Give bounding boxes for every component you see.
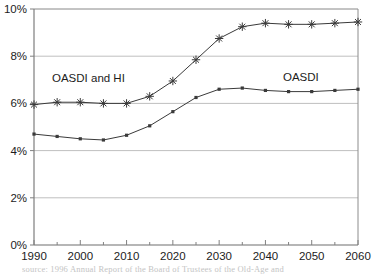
- data-point-2055: [331, 19, 339, 27]
- y-tick-label-2%: 2%: [10, 192, 27, 204]
- x-tick-label-2000: 2000: [67, 250, 93, 262]
- data-point-2035: [238, 23, 246, 31]
- data-point-2030: [215, 34, 223, 42]
- source-caption-cutoff: source: 1996 Annual Report of the Board …: [0, 264, 375, 274]
- data-point-2055: [333, 89, 336, 92]
- data-point-2010: [122, 99, 130, 107]
- x-tick-label-2060: 2060: [345, 250, 371, 262]
- data-point-2050: [310, 90, 313, 93]
- data-point-1990: [30, 100, 38, 108]
- data-point-2045: [287, 90, 290, 93]
- x-tick-label-2020: 2020: [160, 250, 186, 262]
- data-point-2025: [194, 96, 197, 99]
- x-tick-label-1990: 1990: [21, 250, 47, 262]
- x-tick-label-2030: 2030: [206, 250, 232, 262]
- y-axis-tick-labels: 0%2%4%6%8%10%: [4, 3, 27, 251]
- data-point-2015: [148, 124, 151, 127]
- data-point-2060: [356, 88, 359, 91]
- data-point-2005: [102, 138, 105, 141]
- chart-figure: 0%2%4%6%8%10% 19902000201020202030204020…: [0, 0, 375, 274]
- data-point-2015: [146, 92, 154, 100]
- series-annotation-oasdi-and-hi: OASDI and HI: [52, 72, 125, 84]
- data-point-1995: [53, 98, 61, 106]
- x-tick-label-2010: 2010: [114, 250, 140, 262]
- y-tick-label-6%: 6%: [10, 97, 27, 109]
- y-tick-label-10%: 10%: [4, 3, 27, 15]
- series-annotation-oasdi: OASDI: [283, 71, 319, 83]
- data-point-1990: [32, 132, 35, 135]
- plot-background: [34, 9, 358, 245]
- data-point-2040: [264, 89, 267, 92]
- x-axis-tick-labels: 19902000201020202030204020502060: [21, 250, 371, 262]
- data-point-1995: [56, 135, 59, 138]
- data-point-2050: [308, 20, 316, 28]
- data-point-2060: [354, 18, 362, 26]
- data-point-2020: [169, 77, 177, 85]
- income-rate-projection-line-chart: 0%2%4%6%8%10% 19902000201020202030204020…: [0, 0, 375, 274]
- y-tick-label-4%: 4%: [10, 145, 27, 157]
- data-point-2000: [79, 137, 82, 140]
- data-point-2040: [261, 19, 269, 27]
- data-point-2005: [99, 99, 107, 107]
- y-tick-label-8%: 8%: [10, 50, 27, 62]
- data-point-2025: [192, 56, 200, 64]
- data-point-2035: [241, 86, 244, 89]
- data-point-2030: [218, 88, 221, 91]
- data-point-2045: [284, 20, 292, 28]
- data-point-2010: [125, 134, 128, 137]
- x-tick-label-2050: 2050: [299, 250, 325, 262]
- data-point-2000: [76, 98, 84, 106]
- data-point-2020: [171, 110, 174, 113]
- x-tick-label-2040: 2040: [253, 250, 279, 262]
